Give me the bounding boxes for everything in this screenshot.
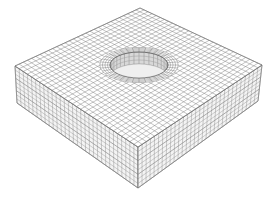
mesh-figure (0, 0, 275, 200)
slab-mesh-drawing (0, 0, 275, 200)
